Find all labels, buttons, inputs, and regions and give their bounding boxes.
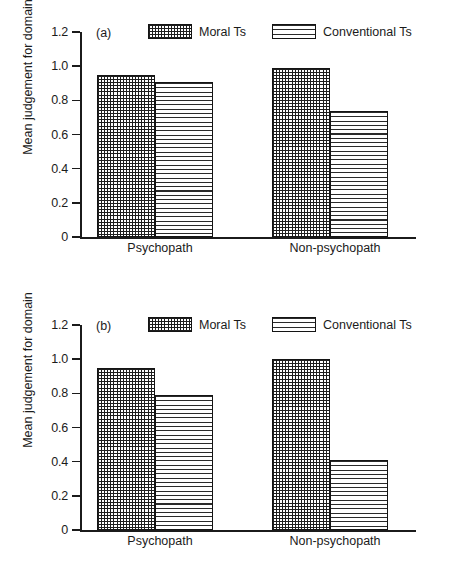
y-tick-0.4 — [72, 168, 80, 169]
chart-panel-b: Mean judgement for domain (b) 1.21.00.80… — [0, 293, 475, 586]
bar-psychopath-moral-ts — [97, 368, 155, 530]
chart-panel-a: Mean judgement for domain (a) 1.21.00.80… — [0, 0, 475, 293]
y-tick-label-0.4: 0.4 — [18, 163, 68, 175]
y-tick-text: 0.6 — [51, 129, 68, 142]
y-tick-label-0: 0 — [18, 524, 68, 536]
y-tick-label-1.2: 1.2 — [18, 319, 68, 331]
y-tick-text: 0 — [61, 231, 68, 244]
y-tick-0.8 — [72, 393, 80, 394]
y-tick-1.2 — [72, 324, 80, 325]
x-group-label-psychopath-a: Psychopath — [80, 241, 240, 255]
plot-area-a — [80, 32, 415, 237]
y-tick-0.2 — [72, 495, 80, 496]
y-tick-text: 1.0 — [51, 353, 68, 366]
y-tick-0 — [72, 529, 80, 530]
y-tick-text: 0.6 — [51, 422, 68, 435]
y-tick-label-0.2: 0.2 — [18, 490, 68, 502]
y-tick-1 — [72, 65, 80, 66]
y-tick-label-0.6: 0.6 — [18, 129, 68, 141]
x-group-label-nonpsychopath-b: Non-psychopath — [255, 534, 415, 548]
y-tick-0.4 — [72, 461, 80, 462]
y-tick-label-0: 0 — [18, 231, 68, 243]
y-tick-0.8 — [72, 100, 80, 101]
x-axis-line-b — [80, 530, 416, 532]
y-tick-label-1.2: 1.2 — [18, 26, 68, 38]
y-tick-text: 0.8 — [51, 387, 68, 400]
bar-non-psychopath-conventional-ts — [330, 111, 388, 237]
y-tick-label-0.8: 0.8 — [18, 387, 68, 399]
x-group-label-psychopath-b: Psychopath — [80, 534, 240, 548]
y-tick-text: 1.2 — [51, 26, 68, 39]
y-tick-0 — [72, 236, 80, 237]
bar-non-psychopath-moral-ts — [272, 359, 330, 530]
y-tick-label-1: 1.0 — [18, 353, 68, 365]
y-tick-text: 0.4 — [51, 456, 68, 469]
y-tick-label-0.2: 0.2 — [18, 197, 68, 209]
y-tick-1.2 — [72, 31, 80, 32]
y-tick-text: 0 — [61, 524, 68, 537]
y-tick-0.6 — [72, 134, 80, 135]
bar-psychopath-conventional-ts — [155, 82, 213, 237]
y-tick-0.6 — [72, 427, 80, 428]
y-tick-text: 0.2 — [51, 197, 68, 210]
y-tick-label-0.6: 0.6 — [18, 422, 68, 434]
y-tick-text: 1.2 — [51, 319, 68, 332]
bar-non-psychopath-moral-ts — [272, 68, 330, 237]
y-tick-label-1: 1.0 — [18, 60, 68, 72]
x-group-label-nonpsychopath-a: Non-psychopath — [255, 241, 415, 255]
x-axis-line-a — [80, 237, 416, 239]
bar-psychopath-conventional-ts — [155, 395, 213, 530]
y-tick-text: 0.4 — [51, 163, 68, 176]
bar-non-psychopath-conventional-ts — [330, 460, 388, 530]
y-tick-0.2 — [72, 202, 80, 203]
y-tick-text: 0.2 — [51, 490, 68, 503]
plot-area-b — [80, 325, 415, 530]
bar-psychopath-moral-ts — [97, 75, 155, 237]
y-tick-1 — [72, 358, 80, 359]
y-tick-text: 1.0 — [51, 60, 68, 73]
y-tick-label-0.8: 0.8 — [18, 94, 68, 106]
y-tick-label-0.4: 0.4 — [18, 456, 68, 468]
y-tick-text: 0.8 — [51, 94, 68, 107]
